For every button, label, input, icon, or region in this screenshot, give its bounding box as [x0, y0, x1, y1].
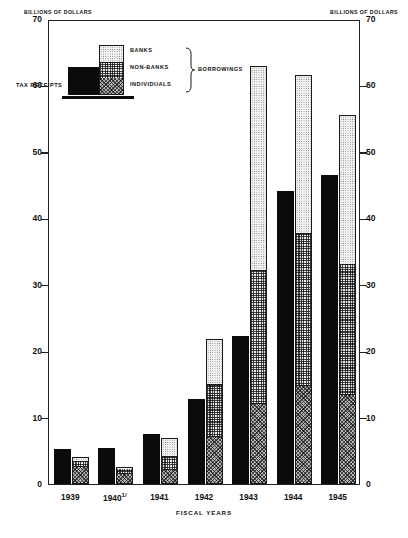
- y-tick-mark: [41, 219, 48, 220]
- y-tick-label: 30: [366, 280, 392, 290]
- y-tick-label: 30: [18, 280, 42, 290]
- legend-swatch-banks: [100, 46, 123, 62]
- segment-divider: [340, 264, 355, 265]
- y-tick-label: 20: [18, 346, 42, 356]
- y-tick-label: 0: [18, 479, 42, 489]
- y-tick-mark: [41, 418, 48, 419]
- y-tick-label: 0: [366, 479, 392, 489]
- bar-segment-non-banks: [340, 265, 355, 395]
- y-tick-mark: [41, 285, 48, 286]
- x-axis-title: FISCAL YEARS: [0, 509, 408, 516]
- y-tick-mark: [41, 352, 48, 353]
- legend-label-nonbanks: NON-BANKS: [130, 64, 169, 70]
- legend-swatch-tax-receipts: [68, 67, 99, 95]
- y-tick-label: 70: [18, 14, 42, 24]
- chart-legend: TAX RECEIPTS BANKS NON-BANKS INDIVIDUALS…: [62, 41, 242, 99]
- y-tick-label: 10: [18, 413, 42, 423]
- legend-swatch-individuals: [100, 78, 123, 94]
- legend-swatch-borrowings-stack: [99, 45, 124, 95]
- bar-segment-individuals: [340, 395, 355, 483]
- y-tick-label: 10: [366, 413, 392, 423]
- y-tick-mark: [41, 152, 48, 153]
- legend-label-tax-receipts: TAX RECEIPTS: [16, 82, 62, 88]
- y-tick-label: 20: [366, 346, 392, 356]
- legend-label-banks: BANKS: [130, 47, 152, 53]
- legend-brace-icon: [185, 47, 195, 93]
- bar-borrowings: [339, 115, 356, 484]
- bar-tax-receipts: [321, 175, 338, 484]
- y-tick-label: 40: [18, 213, 42, 223]
- y-tick-label: 50: [366, 147, 392, 157]
- x-tick-label: 1945: [308, 492, 368, 502]
- y-tick-label: 40: [366, 213, 392, 223]
- y-tick-label: 70: [366, 14, 392, 24]
- legend-label-individuals: INDIVIDUALS: [130, 81, 171, 87]
- y-tick-label: 50: [18, 147, 42, 157]
- chart-figure: BILLIONS OF DOLLARS BILLIONS OF DOLLARS …: [0, 0, 408, 538]
- bar-segment-banks: [340, 116, 355, 265]
- legend-baseline: [62, 96, 134, 99]
- segment-divider: [340, 394, 355, 395]
- y-tick-label: 60: [366, 80, 392, 90]
- legend-label-borrowings: BORROWINGS: [198, 66, 243, 72]
